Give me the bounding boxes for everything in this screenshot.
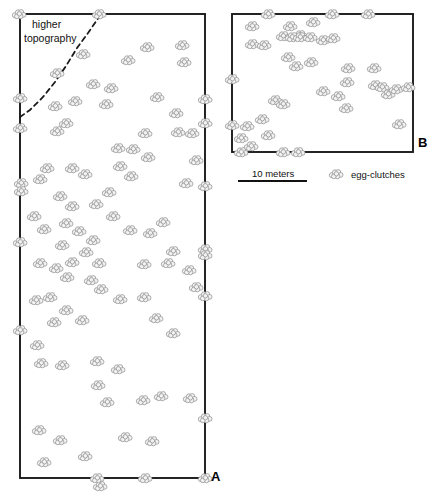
egg-clutch-symbol bbox=[169, 109, 183, 118]
egg-clutch-symbol bbox=[341, 64, 355, 73]
egg-clutch-symbol bbox=[13, 94, 27, 103]
egg-clutch-symbol bbox=[65, 202, 79, 211]
egg-clutch-symbol bbox=[106, 212, 120, 221]
egg-clutch-symbol bbox=[13, 238, 27, 247]
egg-clutch-symbol bbox=[90, 474, 104, 483]
egg-clutch-symbol bbox=[13, 124, 27, 133]
egg-clutch-symbol bbox=[94, 285, 108, 294]
egg-clutch-symbol bbox=[138, 474, 152, 483]
egg-clutch-symbol bbox=[198, 292, 212, 301]
egg-clutch-symbol bbox=[91, 381, 105, 390]
egg-clutch-symbol bbox=[92, 10, 106, 19]
higher-topography-label-line1: higher bbox=[32, 18, 61, 31]
egg-clutch-symbol bbox=[143, 229, 157, 238]
legend-entry-label: egg-clutches bbox=[351, 169, 405, 180]
egg-clutch-symbol bbox=[13, 326, 27, 335]
panel-label-b: B bbox=[418, 136, 427, 149]
egg-clutch-symbol bbox=[141, 153, 155, 162]
egg-clutch-symbol bbox=[37, 225, 51, 234]
egg-clutch-symbol bbox=[55, 361, 69, 370]
egg-clutch-symbol bbox=[175, 41, 189, 50]
egg-clutch-symbol bbox=[124, 172, 138, 181]
egg-clutch-symbol bbox=[138, 129, 152, 138]
egg-clutch-symbol bbox=[257, 41, 271, 50]
egg-clutch-symbol bbox=[89, 200, 103, 209]
egg-clutch-symbol bbox=[65, 258, 79, 267]
egg-clutch-symbol bbox=[137, 260, 151, 269]
egg-clutch-symbol bbox=[316, 87, 330, 96]
egg-clutch-symbol bbox=[179, 179, 193, 188]
egg-clutch-symbol bbox=[37, 458, 51, 467]
panel-label-a: A bbox=[211, 470, 220, 483]
egg-clutch-symbol bbox=[100, 398, 114, 407]
egg-clutch-symbol bbox=[104, 84, 118, 93]
egg-clutch-symbol bbox=[50, 69, 64, 78]
figure-container: A B higher topography 10 meters egg-clut… bbox=[0, 0, 437, 497]
egg-clutch-symbol bbox=[150, 93, 164, 102]
egg-clutch-symbol bbox=[289, 62, 303, 71]
higher-topography-label-line2: topography bbox=[24, 32, 77, 45]
egg-clutch-symbol bbox=[255, 115, 269, 124]
egg-clutch-symbol bbox=[392, 120, 406, 129]
egg-clutch-symbol bbox=[34, 359, 48, 368]
egg-clutch-symbol bbox=[156, 218, 170, 227]
egg-clutch-symbol bbox=[43, 293, 57, 302]
scale-bar-label: 10 meters bbox=[252, 168, 294, 179]
egg-clutch-symbol bbox=[149, 314, 163, 323]
egg-clutch-symbol bbox=[90, 357, 104, 366]
egg-clutch-symbol bbox=[48, 102, 62, 111]
egg-clutch-symbol bbox=[331, 92, 345, 101]
egg-clutch-symbol bbox=[198, 95, 212, 104]
egg-clutch-symbol bbox=[53, 192, 67, 201]
egg-clutch-symbol bbox=[111, 144, 125, 153]
egg-clutch-symbol bbox=[240, 122, 254, 131]
egg-clutch-symbol bbox=[65, 164, 79, 173]
egg-clutch-symbol bbox=[291, 148, 305, 157]
egg-clutch-symbol bbox=[185, 129, 199, 138]
egg-clutch-symbol bbox=[339, 104, 353, 113]
egg-clutch-symbol bbox=[68, 97, 82, 106]
egg-clutch-symbol bbox=[84, 276, 98, 285]
egg-clutch-symbol bbox=[198, 182, 212, 191]
egg-clutch-symbol bbox=[136, 396, 150, 405]
egg-clutch-symbol bbox=[225, 75, 239, 84]
egg-clutch-symbol bbox=[198, 119, 212, 128]
egg-clutch-symbol bbox=[198, 474, 212, 483]
egg-clutch-symbol bbox=[53, 436, 67, 445]
egg-clutch-symbol bbox=[281, 53, 295, 62]
egg-clutch-symbol bbox=[166, 247, 180, 256]
egg-clutch-symbol bbox=[304, 58, 318, 67]
egg-clutch-symbol bbox=[126, 145, 140, 154]
egg-clutch-symbol bbox=[79, 248, 93, 257]
egg-clutch-symbol bbox=[113, 295, 127, 304]
egg-clutch-symbol bbox=[49, 264, 63, 273]
egg-clutch-symbol bbox=[182, 266, 196, 275]
egg-clutch-symbol bbox=[261, 131, 275, 140]
egg-clutch-symbol bbox=[171, 128, 185, 137]
egg-clutch-symbol bbox=[40, 164, 54, 173]
egg-clutch-symbol bbox=[245, 40, 259, 49]
egg-clutch-symbol bbox=[27, 212, 41, 221]
egg-clutch-symbol bbox=[86, 236, 100, 245]
egg-clutch-symbol bbox=[113, 162, 127, 171]
egg-clutch-symbol bbox=[14, 179, 28, 188]
egg-clutch-symbol bbox=[29, 296, 43, 305]
egg-clutch-symbol bbox=[161, 259, 175, 268]
egg-clutch-symbol bbox=[78, 170, 92, 179]
egg-clutch-symbol bbox=[55, 241, 69, 250]
egg-clutch-symbol bbox=[30, 341, 44, 350]
egg-clutch-symbol bbox=[86, 80, 100, 89]
egg-clutch-symbol bbox=[261, 10, 275, 19]
egg-clutch-symbol bbox=[177, 58, 191, 67]
egg-clutch-symbol bbox=[59, 306, 73, 315]
egg-clutch-symbol bbox=[102, 188, 116, 197]
egg-clutch-symbol bbox=[389, 85, 403, 94]
egg-clutch-symbol bbox=[33, 175, 47, 184]
egg-clutch-symbol bbox=[59, 219, 73, 228]
egg-clutch-symbol bbox=[189, 283, 203, 292]
egg-clutch-symbol bbox=[166, 329, 180, 338]
egg-clutch-symbol bbox=[244, 142, 258, 151]
egg-clutch-symbol bbox=[276, 148, 290, 157]
figure-canvas bbox=[0, 0, 437, 497]
egg-clutch-symbol bbox=[76, 50, 90, 59]
